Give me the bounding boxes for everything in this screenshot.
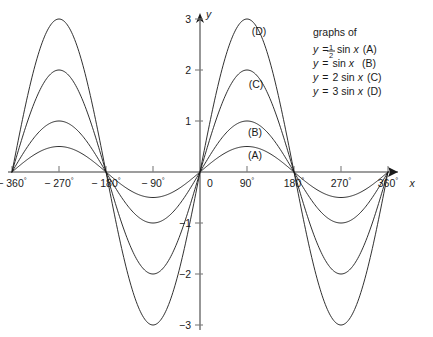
curve-label-c: (C) — [249, 78, 264, 90]
y-tick-label-2: 2 — [185, 64, 191, 76]
legend-title: graphs of — [313, 26, 357, 38]
y-tick-label-neg2: −2 — [179, 268, 191, 280]
y-tick-label-neg1: −1 — [179, 217, 191, 229]
chart-canvas: − 360° − 270° − 180° − 90° 0 90° 180° 27… — [0, 0, 433, 337]
x-tick-label-neg270: − 270° — [44, 176, 74, 190]
x-tick-label-270: 270° — [331, 176, 352, 190]
legend-entry-b: y=sinx(B) — [312, 57, 376, 69]
y-tick-label-1: 1 — [185, 115, 191, 127]
x-tick-label-zero: 0 — [207, 177, 213, 189]
sine-graph-figure: − 360° − 270° − 180° − 90° 0 90° 180° 27… — [0, 0, 433, 337]
y-axis-label: y — [205, 8, 212, 20]
x-tick-label-90: 90° — [240, 176, 255, 190]
x-tick-label-neg360: − 360° — [0, 176, 27, 190]
x-tick-label-neg90: − 90° — [141, 176, 165, 190]
y-tick-label-neg3: −3 — [179, 319, 191, 331]
x-tick-label-neg180: − 180° — [91, 176, 121, 190]
curve-label-d: (D) — [252, 25, 267, 37]
y-tick-label-3: 3 — [185, 13, 191, 25]
x-tick-label-180: 180° — [284, 176, 305, 190]
curve-label-b: (B) — [248, 126, 262, 138]
curve-inline-labels: (D) (C) (B) (A) — [248, 25, 266, 161]
legend-entry-a-text: y= — [312, 43, 328, 55]
legend-entry-c: y=2sinx(C) — [312, 71, 382, 83]
curve-label-a: (A) — [248, 149, 262, 161]
x-axis — [8, 167, 398, 177]
legend-entry-d: y=3sinx(D) — [312, 85, 382, 97]
legend: graphs of y= 1 2 sinx(A) y=sinx(B) y=2si… — [312, 26, 382, 97]
x-axis-label: x — [408, 177, 415, 189]
x-tick-label-360: 360° — [378, 176, 399, 190]
legend-entry-a-rest: sinx(A) — [337, 43, 377, 55]
